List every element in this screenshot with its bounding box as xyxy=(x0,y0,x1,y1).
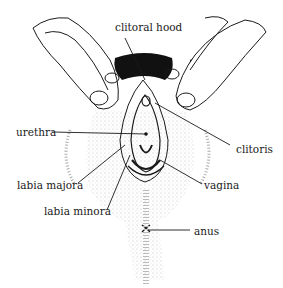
body-shading xyxy=(66,110,209,280)
vulva-anatomy-figure: clitoral hoodurethraclitorislabia majora… xyxy=(0,0,283,288)
label-urethra: urethra xyxy=(16,127,56,138)
label-clitoris: clitoris xyxy=(236,144,273,155)
left-hand xyxy=(33,18,119,109)
label-clitoral-hood: clitoral hood xyxy=(115,22,182,33)
label-anus: anus xyxy=(194,226,219,237)
label-labia-majora: labia majora xyxy=(17,180,83,191)
label-vagina: vagina xyxy=(204,180,239,191)
label-labia-minora: labia minora xyxy=(44,206,111,217)
